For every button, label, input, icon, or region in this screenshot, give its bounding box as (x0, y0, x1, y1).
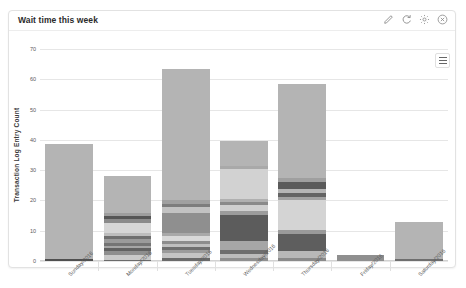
chart-card: Wait time this week (8, 10, 456, 268)
gear-icon[interactable] (419, 14, 430, 25)
page-title: Wait time this week (18, 15, 98, 25)
y-axis-tick: 50 (30, 107, 36, 113)
y-axis-tick: 60 (30, 76, 36, 82)
y-axis-tick: 20 (30, 197, 36, 203)
bar-segment[interactable] (162, 213, 210, 232)
bar-segment[interactable] (278, 234, 326, 252)
card-header-actions (383, 14, 448, 25)
bar-segment[interactable] (104, 176, 152, 212)
y-axis-tick: 40 (30, 137, 36, 143)
y-axis-tick: 10 (30, 228, 36, 234)
chart-area: Transaction Log Entry Count 010203040506… (9, 31, 455, 267)
bar-segment[interactable] (220, 241, 268, 250)
y-axis-label: Transaction Log Entry Count (13, 108, 20, 203)
close-icon[interactable] (437, 14, 448, 25)
bar-segment[interactable] (278, 200, 326, 230)
bar-stack[interactable] (220, 141, 268, 261)
bar-segment[interactable] (162, 69, 210, 200)
card-header: Wait time this week (9, 11, 455, 31)
bar-segment[interactable] (45, 144, 93, 258)
bar-stack[interactable] (278, 84, 326, 261)
bar-stack[interactable] (45, 144, 93, 261)
y-axis-tick: 30 (30, 167, 36, 173)
plot-canvas: Transaction Log Entry Count 010203040506… (40, 49, 448, 261)
bar-segment[interactable] (220, 141, 268, 165)
bar-segment[interactable] (220, 205, 268, 212)
refresh-icon[interactable] (401, 14, 412, 25)
edit-icon[interactable] (383, 14, 394, 25)
bar-segment[interactable] (278, 182, 326, 189)
bar-segment[interactable] (220, 169, 268, 199)
bar-stack[interactable] (104, 173, 152, 261)
bar-series (40, 49, 448, 261)
x-axis-labels: Sunday/2016Monday/2016Tuesday/2016Wednes… (40, 261, 448, 288)
bar-segment[interactable] (104, 223, 152, 233)
bar-segment[interactable] (278, 84, 326, 178)
y-axis-tick: 0 (33, 258, 36, 264)
y-axis-tick: 70 (30, 46, 36, 52)
bar-segment[interactable] (220, 215, 268, 241)
bar-stack[interactable] (162, 69, 210, 261)
